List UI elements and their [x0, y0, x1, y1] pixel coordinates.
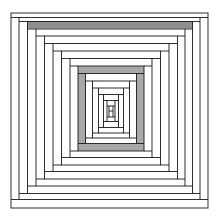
inner-ring-top — [78, 66, 144, 73]
inner-ring-left — [78, 66, 86, 151]
inner-ring-bottom — [78, 144, 144, 151]
tunnel-illustration-canvas — [0, 0, 219, 222]
top-band-ring-1 — [28, 21, 193, 29]
inner-ring-right — [137, 66, 145, 151]
artboard — [0, 0, 219, 222]
